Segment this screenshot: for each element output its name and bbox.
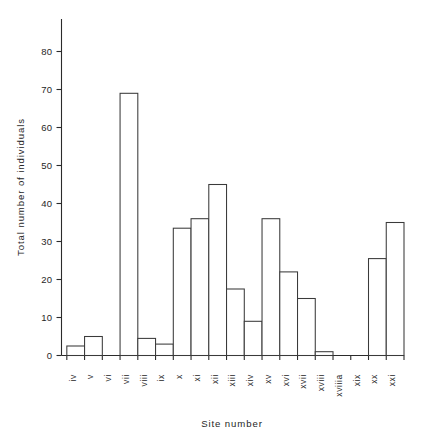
x-tick-label-xii: xii [210, 374, 220, 384]
bar-xi [191, 219, 209, 356]
bar-viii [138, 338, 156, 355]
x-tick-label-xvi: xvi [281, 374, 291, 386]
bar-x [173, 228, 191, 355]
bar-xiii [227, 289, 245, 356]
x-tick-label-xiii: xiii [227, 374, 237, 386]
bar-xiv [244, 321, 262, 355]
y-tick-label: 0 [47, 350, 53, 361]
y-tick-label: 40 [41, 198, 52, 209]
x-tick-label-iv: iv [68, 374, 78, 382]
bar-ix [156, 344, 174, 355]
bar-chart-svg: 01020304050607080 ivvviviiviiiixxxixiixi… [0, 0, 423, 437]
x-tick-label-xviiia: xviiia [334, 374, 344, 397]
bar-iv [67, 346, 85, 356]
y-tick-label: 80 [41, 46, 52, 57]
bar-xx [369, 259, 387, 356]
x-tick-label-vi: vi [103, 374, 113, 381]
bar-xvi [280, 272, 298, 356]
x-tick-label-vii: vii [121, 374, 131, 384]
x-tick-label-ix: ix [156, 374, 166, 382]
y-axis-ticks: 01020304050607080 [41, 46, 61, 361]
bar-xviii [315, 352, 333, 356]
x-tick-label-xi: xi [192, 374, 202, 381]
x-tick-label-v: v [85, 374, 95, 379]
y-tick-label: 30 [41, 236, 52, 247]
bar-xvii [298, 299, 316, 356]
x-tick-label-xxi: xxi [387, 374, 397, 386]
y-tick-label: 20 [41, 274, 52, 285]
bar-xii [209, 185, 227, 356]
y-tick-label: 70 [41, 84, 52, 95]
bar-xxi [386, 223, 404, 356]
chart-figure: 01020304050607080 ivvviviiviiiixxxixiixi… [0, 0, 423, 437]
bar-vii [120, 93, 138, 355]
x-axis-title: Site number [201, 418, 263, 429]
bars-group [67, 93, 404, 355]
x-axis-category-labels: ivvviviiviiiixxxixiixiiixivxvxvixviixvii… [68, 374, 397, 397]
y-tick-label: 50 [41, 160, 52, 171]
x-tick-label-xviii: xviii [316, 374, 326, 391]
y-axis-title: Total number of individuals [15, 118, 26, 256]
bar-v [85, 337, 103, 356]
y-tick-label: 10 [41, 312, 52, 323]
x-tick-label-viii: viii [139, 374, 149, 386]
x-tick-label-xix: xix [352, 374, 362, 386]
x-tick-label-xv: xv [263, 374, 273, 384]
x-axis-ticks [67, 356, 404, 361]
x-tick-label-xiv: xiv [245, 374, 255, 386]
y-tick-label: 60 [41, 122, 52, 133]
x-tick-label-xx: xx [369, 374, 379, 384]
x-tick-label-x: x [174, 374, 184, 379]
bar-xv [262, 219, 280, 356]
x-tick-label-xvii: xvii [298, 374, 308, 389]
